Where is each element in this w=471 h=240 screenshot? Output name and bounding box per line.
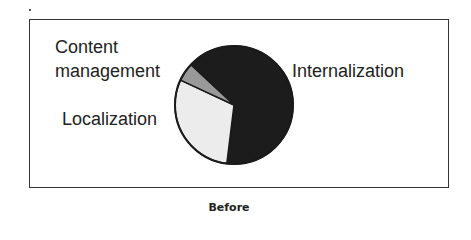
pie-slices	[175, 46, 293, 164]
label-content-line2: management	[55, 59, 160, 83]
chart-caption: Before	[0, 201, 458, 214]
label-localization: Localization	[62, 109, 157, 129]
label-internalization: Internalization	[292, 61, 404, 81]
label-content-management: Content management	[55, 35, 160, 83]
label-content-line1: Content	[55, 35, 160, 59]
